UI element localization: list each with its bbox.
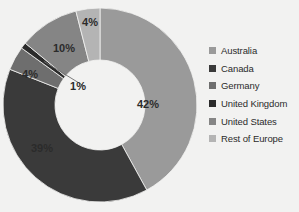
- legend-item-label: Australia: [221, 45, 257, 56]
- legend-item[interactable]: Germany: [209, 77, 299, 95]
- legend-item[interactable]: Rest of Europe: [209, 130, 299, 148]
- legend-item-label: United Kingdom: [221, 98, 287, 109]
- legend-item[interactable]: Canada: [209, 60, 299, 78]
- legend-item[interactable]: Australia: [209, 42, 299, 60]
- slice-data-label: 1%: [70, 80, 86, 92]
- donut-chart-figure: 42%39%4%1%10%4% AustraliaCanadaGermanyUn…: [0, 0, 299, 212]
- legend-swatch-icon: [209, 118, 216, 125]
- slice-data-label: 4%: [82, 16, 98, 28]
- legend-item-label: United States: [221, 116, 277, 127]
- legend-swatch-icon: [209, 82, 216, 89]
- legend-item-label: Germany: [221, 80, 259, 91]
- legend-item[interactable]: United Kingdom: [209, 95, 299, 113]
- legend-swatch-icon: [209, 47, 216, 54]
- donut-chart-svg: 42%39%4%1%10%4%: [0, 0, 200, 212]
- legend-item-label: Canada: [221, 63, 254, 74]
- slice-data-label: 4%: [22, 68, 38, 80]
- chart-legend: AustraliaCanadaGermanyUnited KingdomUnit…: [209, 42, 299, 148]
- slice-data-label: 10%: [53, 42, 75, 54]
- legend-item-label: Rest of Europe: [221, 133, 283, 144]
- legend-swatch-icon: [209, 65, 216, 72]
- legend-item[interactable]: United States: [209, 112, 299, 130]
- slice-data-label: 39%: [31, 142, 53, 154]
- donut-chart-plot-area: 42%39%4%1%10%4%: [0, 0, 200, 212]
- legend-swatch-icon: [209, 100, 216, 107]
- donut-slice-group: [3, 8, 197, 202]
- legend-swatch-icon: [209, 135, 216, 142]
- slice-data-label: 42%: [137, 98, 159, 110]
